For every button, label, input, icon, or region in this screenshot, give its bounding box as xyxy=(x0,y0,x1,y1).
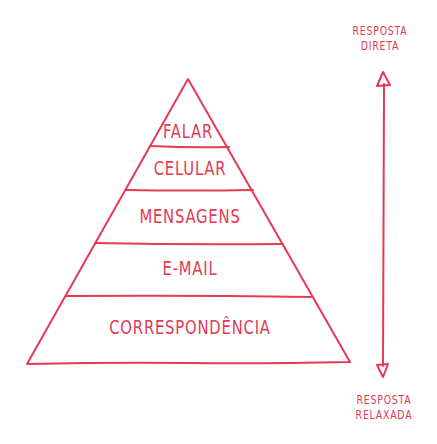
divider-3 xyxy=(95,243,283,244)
arrow-shaft xyxy=(383,84,384,366)
level-label-correspondencia: CORRESPONDÊNCIA xyxy=(89,316,292,338)
level-label-mensagens: MENSAGENS xyxy=(120,205,260,227)
level-label-celular: CELULAR xyxy=(143,157,237,179)
axis-bottom-label-line2: RELAXADA xyxy=(345,408,423,423)
level-label-falar: FALAR xyxy=(157,120,219,142)
divider-1 xyxy=(151,146,229,147)
diagram-canvas: FALAR CELULAR MENSAGENS E-MAIL CORRESPON… xyxy=(0,0,437,444)
axis-top-label-line1: RESPOSTA xyxy=(341,24,419,39)
divider-4 xyxy=(66,296,311,297)
level-label-email: E-MAIL xyxy=(143,257,237,279)
axis-bottom-label-line1: RESPOSTA xyxy=(345,393,423,408)
divider-2 xyxy=(126,190,253,191)
axis-top-label: RESPOSTA DIRETA xyxy=(341,24,419,54)
axis-top-label-line2: DIRETA xyxy=(341,39,419,54)
axis-bottom-label: RESPOSTA RELAXADA xyxy=(345,393,423,423)
